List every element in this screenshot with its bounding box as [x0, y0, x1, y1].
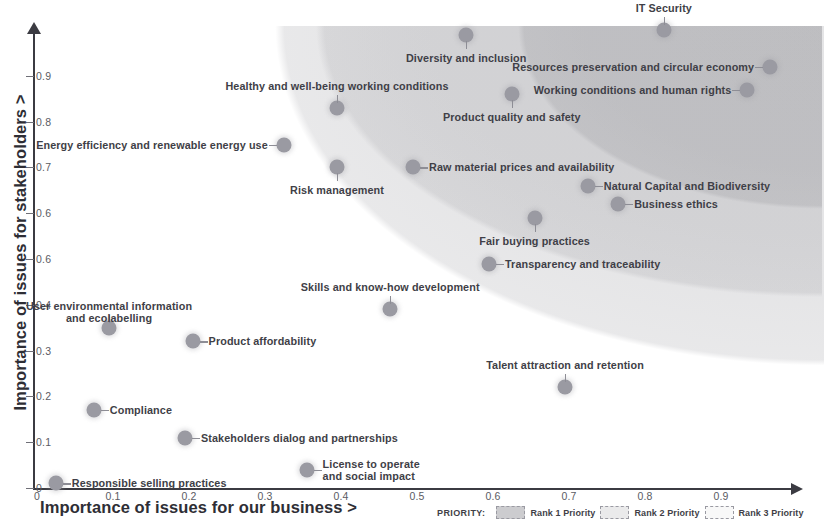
leader-line [755, 67, 763, 68]
leader-line [535, 224, 536, 232]
data-point-label: Energy efficiency and renewable energy u… [36, 138, 268, 150]
data-point-label: Talent attraction and retention [486, 359, 644, 371]
x-axis-title: Importance of issues for our business > [40, 498, 357, 517]
data-point-label: License to operate and social impact [323, 457, 420, 482]
data-point[interactable] [580, 178, 595, 193]
x-tick-label: 0.6 [485, 490, 500, 502]
y-tick-label: 0.9 [36, 70, 51, 82]
leader-line [496, 264, 504, 265]
data-point[interactable] [406, 160, 421, 175]
leader-line [466, 41, 467, 49]
data-point[interactable] [178, 430, 193, 445]
x-tick-label: 0.7 [561, 490, 576, 502]
leader-line [390, 296, 391, 304]
legend-label: Rank 3 Priority [739, 508, 804, 518]
legend-item[interactable]: Rank 2 Priority [600, 506, 699, 519]
priority-band-rank3 [64, 26, 824, 496]
data-point[interactable] [48, 476, 63, 491]
legend-items: Rank 1 PriorityRank 2 PriorityRank 3 Pri… [491, 506, 803, 519]
data-point-label: Resources preservation and circular econ… [512, 60, 754, 72]
x-tick-label: 0.5 [409, 490, 424, 502]
leader-line [420, 167, 428, 168]
data-point-label: IT Security [636, 2, 692, 14]
data-point-label: Stakeholders dialog and partnerships [201, 431, 398, 443]
leader-line [732, 90, 740, 91]
data-point-label: User environmental information and ecola… [26, 300, 192, 325]
data-point[interactable] [299, 462, 314, 477]
legend: PRIORITY: Rank 1 PriorityRank 2 Priority… [437, 506, 804, 519]
data-point-label: Healthy and well-being working condition… [225, 80, 448, 92]
leader-line [314, 470, 322, 471]
leader-line [337, 95, 338, 103]
leader-line [512, 100, 513, 108]
leader-line [565, 374, 566, 382]
y-tick-mark [26, 488, 34, 489]
y-tick-label: 0.6 [36, 253, 51, 265]
leader-line [664, 17, 665, 25]
data-point-label: Product quality and safety [443, 111, 581, 123]
legend-swatch [600, 506, 629, 519]
data-point[interactable] [740, 82, 755, 97]
data-point-label: Working conditions and human rights [534, 83, 732, 95]
leader-line [625, 204, 633, 205]
data-point[interactable] [611, 197, 626, 212]
data-point[interactable] [185, 334, 200, 349]
data-point-label: Business ethics [634, 198, 718, 210]
leader-line [595, 186, 603, 187]
data-point-label: Responsible selling practices [72, 477, 227, 489]
legend-item[interactable]: Rank 3 Priority [705, 506, 804, 519]
x-tick-label: 0.8 [637, 490, 652, 502]
legend-item[interactable]: Rank 1 Priority [496, 506, 595, 519]
data-point-label: Skills and know-how development [301, 281, 480, 293]
leader-line [200, 341, 208, 342]
leader-line [101, 410, 109, 411]
y-axis-title: Importance of issues for stakeholders > [11, 18, 30, 488]
data-point-label: Compliance [110, 404, 172, 416]
leader-line [63, 483, 71, 484]
y-axis-line [33, 32, 35, 490]
data-point-label: Transparency and traceability [505, 257, 660, 269]
legend-label: Rank 2 Priority [634, 508, 699, 518]
y-tick-label: 0.2 [36, 390, 51, 402]
data-point-label: Raw material prices and availability [429, 161, 614, 173]
y-tick-label: 0.8 [36, 116, 51, 128]
data-point-label: Fair buying practices [479, 235, 590, 247]
leader-line [192, 438, 200, 439]
leader-line [269, 145, 277, 146]
y-tick-label: 0.3 [36, 345, 51, 357]
y-tick-label: 0.7 [36, 161, 51, 173]
legend-swatch [705, 506, 734, 519]
data-point[interactable] [763, 59, 778, 74]
data-point[interactable] [482, 256, 497, 271]
data-point-label: Product affordability [209, 335, 317, 347]
data-point[interactable] [276, 137, 291, 152]
leader-line [337, 173, 338, 181]
x-axis-arrow-icon [791, 483, 803, 495]
data-point-label: Diversity and inclusion [406, 52, 527, 64]
y-tick-label: 0.6 [36, 207, 51, 219]
legend-title: PRIORITY: [437, 508, 485, 518]
legend-label: Rank 1 Priority [530, 508, 595, 518]
data-point-label: Risk management [290, 184, 384, 196]
x-tick-label: 0.9 [713, 490, 728, 502]
y-tick-label: 0.1 [36, 436, 51, 448]
legend-swatch [496, 506, 525, 519]
data-point[interactable] [86, 403, 101, 418]
data-point-label: Natural Capital and Biodiversity [604, 180, 770, 192]
